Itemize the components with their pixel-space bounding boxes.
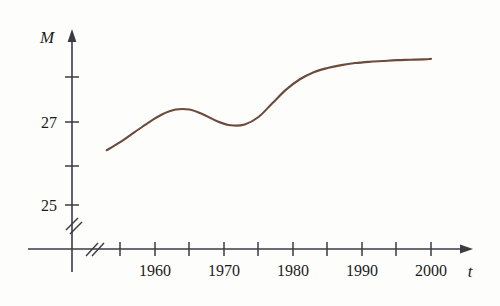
y-tick-label-27: 27 — [41, 114, 57, 131]
x-axis-label: t — [468, 262, 474, 281]
x-tick-label-2000: 2000 — [415, 262, 447, 279]
y-axis-label: M — [39, 28, 55, 47]
data-series-line — [107, 59, 431, 150]
x-tick-label-1990: 1990 — [346, 262, 378, 279]
x-tick-label-1960: 1960 — [139, 262, 171, 279]
x-tick-label-1980: 1980 — [277, 262, 309, 279]
y-tick-label-25: 25 — [41, 197, 57, 214]
line-chart-plot: 27 25 1960 1970 1980 1990 2000 M t — [0, 0, 500, 306]
y-axis-group — [68, 29, 77, 272]
x-tick-label-1970: 1970 — [208, 262, 240, 279]
x-axis-arrowhead — [460, 245, 473, 254]
y-axis-tick-labels: 27 25 — [41, 114, 57, 214]
x-axis-tick-labels: 1960 1970 1980 1990 2000 — [139, 262, 447, 279]
y-axis-break-mark — [66, 218, 82, 234]
y-axis-arrowhead — [68, 29, 77, 42]
chart-figure: 27 25 1960 1970 1980 1990 2000 M t — [0, 0, 500, 306]
